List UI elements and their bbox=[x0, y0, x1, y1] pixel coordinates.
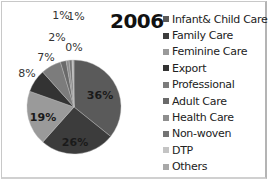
legend-label: Others bbox=[172, 160, 207, 173]
legend-item-export[interactable]: Export bbox=[163, 60, 263, 76]
legend-swatch bbox=[163, 65, 169, 71]
legend-item-adult-care[interactable]: Adult Care bbox=[163, 93, 263, 109]
label-feminine-care: 19% bbox=[30, 111, 56, 124]
legend-label: Family Care bbox=[172, 29, 233, 42]
label-professional: 7% bbox=[37, 51, 54, 64]
legend-item-dtp[interactable]: DTP bbox=[163, 142, 263, 158]
legend-label: Adult Care bbox=[172, 95, 227, 108]
label-infant-child-care: 36% bbox=[87, 89, 113, 102]
legend-swatch bbox=[163, 98, 169, 104]
legend-item-feminine-care[interactable]: Feminine Care bbox=[163, 44, 263, 60]
legend-swatch bbox=[163, 33, 169, 39]
label-adult-care: 2% bbox=[48, 31, 65, 44]
legend-swatch bbox=[163, 164, 169, 170]
legend-item-health-care[interactable]: Health Care bbox=[163, 109, 263, 125]
legend-swatch bbox=[163, 115, 169, 121]
label-family-care: 26% bbox=[62, 136, 88, 149]
legend: Infant& Child Care Family Care Feminine … bbox=[163, 11, 263, 175]
label-non-woven: 1% bbox=[67, 10, 84, 23]
legend-item-family-care[interactable]: Family Care bbox=[163, 27, 263, 43]
legend-item-non-woven[interactable]: Non-woven bbox=[163, 126, 263, 142]
legend-swatch bbox=[163, 131, 169, 137]
legend-item-infant-child-care[interactable]: Infant& Child Care bbox=[163, 11, 263, 27]
label-dtp: 0% bbox=[65, 41, 82, 54]
legend-swatch bbox=[163, 49, 169, 55]
legend-item-professional[interactable]: Professional bbox=[163, 77, 263, 93]
legend-item-others[interactable]: Others bbox=[163, 159, 263, 175]
label-export: 8% bbox=[18, 67, 35, 80]
legend-label: Non-woven bbox=[172, 127, 231, 140]
legend-label: Feminine Care bbox=[172, 45, 247, 58]
legend-swatch bbox=[163, 147, 169, 153]
legend-label: Infant& Child Care bbox=[172, 13, 268, 26]
legend-swatch bbox=[163, 82, 169, 88]
legend-label: Export bbox=[172, 62, 206, 75]
legend-swatch bbox=[163, 16, 169, 22]
legend-label: Professional bbox=[172, 78, 235, 91]
legend-label: Health Care bbox=[172, 111, 234, 124]
legend-label: DTP bbox=[172, 144, 193, 157]
